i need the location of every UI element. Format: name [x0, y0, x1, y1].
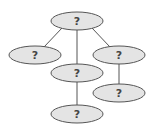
node-middle: ?: [51, 64, 103, 82]
node-label: ?: [74, 108, 80, 121]
edge-root-right: [92, 28, 110, 47]
node-bottom: ?: [51, 105, 103, 123]
node-left: ?: [9, 46, 61, 64]
node-label: ?: [74, 15, 80, 28]
tree-diagram: ? ? ? ? ? ?: [0, 0, 154, 137]
node-root: ?: [51, 12, 103, 30]
node-label: ?: [32, 49, 38, 62]
node-right-child: ?: [93, 84, 145, 102]
node-label: ?: [74, 67, 80, 80]
node-label: ?: [116, 87, 122, 100]
edge-root-left: [44, 28, 62, 47]
node-label: ?: [116, 49, 122, 62]
tree-diagram-svg: ? ? ? ? ? ?: [0, 0, 154, 137]
node-right: ?: [93, 46, 145, 64]
